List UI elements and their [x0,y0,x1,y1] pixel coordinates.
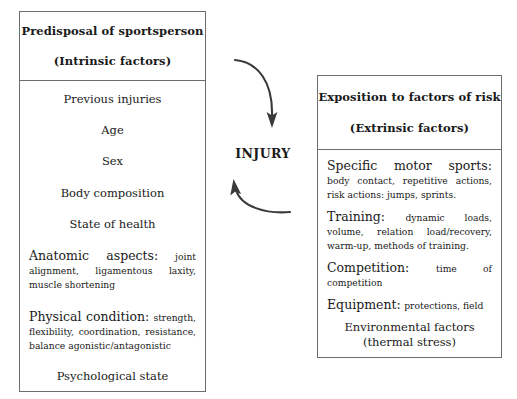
extrinsic-box-header: Exposition to factors of risk (Extrinsic… [318,76,501,150]
intrinsic-item-body-composition: Body composition [29,186,196,201]
intrinsic-item-physical-condition: Physical condition: strength, flexibilit… [29,309,196,353]
extrinsic-item-specific-motor-sports: Specific motor sports: body contact, rep… [327,158,492,202]
intrinsic-header-subtitle: (Intrinsic factors) [54,54,171,68]
specific-motor-sports-lead: Specific motor sports: [327,158,492,173]
injury-label: INJURY [228,146,298,161]
environmental-factors-line1: Environmental factors [327,320,492,336]
intrinsic-factors-box: Predisposal of sportsperson (Intrinsic f… [19,11,206,392]
extrinsic-item-training: Training: dynamic loads, volume, relatio… [327,209,492,253]
training-lead: Training: [327,209,385,224]
physical-condition-lead: Physical condition: [29,309,149,324]
competition-lead: Competition: [327,260,409,275]
intrinsic-item-previous-injuries: Previous injuries [29,92,196,107]
injury-risk-factors-diagram: Predisposal of sportsperson (Intrinsic f… [0,0,517,399]
environmental-factors-line2: (thermal stress) [327,335,492,351]
extrinsic-factors-box: Exposition to factors of risk (Extrinsic… [317,75,502,358]
arrow-extrinsic-to-injury-icon [230,179,290,212]
intrinsic-item-age: Age [29,123,196,138]
intrinsic-items-list: Previous injuries Age Sex Body compositi… [20,81,205,392]
intrinsic-header-title: Predisposal of sportsperson [21,24,203,38]
anatomic-aspects-lead: Anatomic aspects: [29,248,158,263]
extrinsic-item-competition: Competition: time of competition [327,260,492,290]
extrinsic-items-list: Specific motor sports: body contact, rep… [318,150,501,359]
equipment-sub: protections, field [404,300,483,311]
intrinsic-item-sex: Sex [29,154,196,169]
intrinsic-box-header: Predisposal of sportsperson (Intrinsic f… [20,12,205,81]
intrinsic-item-anatomic-aspects: Anatomic aspects: joint alignment, ligam… [29,248,196,292]
extrinsic-item-equipment: Equipment: protections, field [327,297,492,313]
specific-motor-sports-sub: body contact, repetitive actions, risk a… [327,175,492,200]
extrinsic-header-title: Exposition to factors of risk [318,90,500,104]
extrinsic-item-environmental-factors: Environmental factors (thermal stress) [327,320,492,351]
intrinsic-item-psychological-state: Psychological state [29,369,196,384]
equipment-lead: Equipment: [327,297,401,312]
arrow-intrinsic-to-injury-icon [235,60,277,128]
intrinsic-item-state-of-health: State of health [29,217,196,232]
extrinsic-header-subtitle: (Extrinsic factors) [350,121,469,135]
